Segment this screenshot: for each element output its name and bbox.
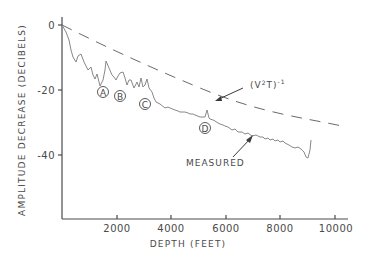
attenuation-chart: 0 -20 -40 2000 4000 6000 8000 10000 DEPT… xyxy=(0,0,371,259)
svg-text:D: D xyxy=(202,124,209,134)
x-tick-2000: 2000 xyxy=(103,223,130,234)
x-axis xyxy=(62,215,348,219)
point-label-d: D xyxy=(200,123,211,134)
x-axis-title: DEPTH (FEET) xyxy=(150,239,227,249)
svg-text:MEASURED: MEASURED xyxy=(186,158,245,168)
y-tick-0: 0 xyxy=(48,20,55,31)
x-tick-4000: 4000 xyxy=(157,223,184,234)
x-tick-6000: 6000 xyxy=(212,223,239,234)
arrowhead-icon xyxy=(215,96,222,101)
y-axis xyxy=(58,17,62,219)
svg-text:C: C xyxy=(142,100,148,110)
y-axis-title: AMPLITUDE DECREASE (DECIBELS) xyxy=(17,24,27,216)
point-label-b: B xyxy=(115,91,126,102)
y-tick-minus40: -40 xyxy=(37,150,55,161)
point-label-a: A xyxy=(98,87,109,98)
svg-text:A: A xyxy=(100,88,107,98)
measured-curve-label: MEASURED xyxy=(186,135,253,168)
svg-text:(V2T)-1: (V2T)-1 xyxy=(250,78,286,90)
x-tick-10000: 10000 xyxy=(319,223,353,234)
x-tick-8000: 8000 xyxy=(266,223,293,234)
y-tick-minus20: -20 xyxy=(37,85,55,96)
point-label-c: C xyxy=(140,99,151,110)
svg-text:B: B xyxy=(117,92,123,102)
